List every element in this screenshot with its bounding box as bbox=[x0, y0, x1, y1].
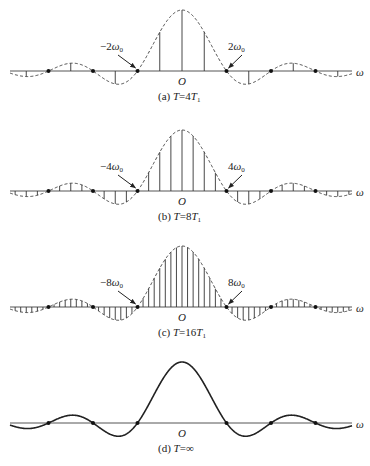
first-zero-right-label: 2ω0 bbox=[228, 40, 245, 54]
arrow-icon bbox=[118, 55, 136, 68]
zero-crossing-dot bbox=[269, 305, 273, 309]
panel-caption: (d) T=∞ bbox=[158, 442, 194, 455]
panel-c: Oω−8ω08ω0(c) T=16T1 bbox=[10, 246, 364, 340]
omega-axis-label: ω bbox=[356, 186, 364, 198]
first-zero-right-label: 8ω0 bbox=[228, 276, 245, 290]
origin-label: O bbox=[178, 195, 186, 207]
first-zero-right-label: 4ω0 bbox=[228, 160, 245, 174]
zero-crossing-dot bbox=[91, 421, 95, 425]
zero-crossing-dot bbox=[225, 189, 229, 193]
zero-crossing-dot bbox=[47, 421, 51, 425]
sinc-envelope-dashed bbox=[10, 10, 352, 84]
omega-axis-label: ω bbox=[356, 302, 364, 314]
panel-b: Oω−4ω04ω0(b) T=8T1 bbox=[10, 130, 364, 224]
panel-a: Oω−2ω02ω0(a) T=4T1 bbox=[10, 10, 364, 104]
first-zero-left-label: −8ω0 bbox=[100, 276, 124, 290]
zero-crossing-dot bbox=[47, 305, 51, 309]
omega-axis-label: ω bbox=[356, 418, 364, 430]
zero-crossing-dot bbox=[269, 69, 273, 73]
zero-crossing-dot bbox=[91, 189, 95, 193]
arrow-icon bbox=[118, 291, 136, 304]
zero-crossing-dot bbox=[269, 189, 273, 193]
panel-d: Oω(d) T=∞ bbox=[10, 362, 364, 455]
zero-crossing-dot bbox=[91, 305, 95, 309]
first-zero-left-label: −2ω0 bbox=[100, 40, 124, 54]
zero-crossing-dot bbox=[225, 69, 229, 73]
zero-crossing-dot bbox=[47, 69, 51, 73]
first-zero-left-label: −4ω0 bbox=[100, 160, 124, 174]
panel-caption: (a) T=4T1 bbox=[158, 90, 201, 104]
spectrum-figure: Oω−2ω02ω0(a) T=4T1Oω−4ω04ω0(b) T=8T1Oω−8… bbox=[0, 0, 370, 466]
origin-label: O bbox=[178, 427, 186, 439]
zero-crossing-dot bbox=[314, 421, 318, 425]
arrow-icon bbox=[229, 175, 243, 188]
zero-crossing-dot bbox=[314, 189, 318, 193]
zero-crossing-dot bbox=[136, 305, 140, 309]
arrow-icon bbox=[229, 55, 243, 68]
zero-crossing-dot bbox=[136, 69, 140, 73]
origin-label: O bbox=[178, 75, 186, 87]
panel-caption: (b) T=8T1 bbox=[158, 210, 202, 224]
zero-crossing-dot bbox=[47, 189, 51, 193]
arrow-icon bbox=[229, 291, 243, 304]
sinc-envelope-dashed bbox=[10, 130, 352, 204]
arrow-icon bbox=[118, 175, 136, 188]
zero-crossing-dot bbox=[314, 69, 318, 73]
zero-crossing-dot bbox=[225, 421, 229, 425]
origin-label: O bbox=[178, 311, 186, 323]
zero-crossing-dot bbox=[136, 189, 140, 193]
sinc-envelope-dashed bbox=[10, 246, 352, 320]
zero-crossing-dot bbox=[225, 305, 229, 309]
panel-caption: (c) T=16T1 bbox=[158, 326, 206, 340]
zero-crossing-dot bbox=[91, 69, 95, 73]
continuous-spectrum-curve bbox=[10, 362, 352, 436]
zero-crossing-dot bbox=[136, 421, 140, 425]
omega-axis-label: ω bbox=[356, 66, 364, 78]
zero-crossing-dot bbox=[269, 421, 273, 425]
zero-crossing-dot bbox=[314, 305, 318, 309]
